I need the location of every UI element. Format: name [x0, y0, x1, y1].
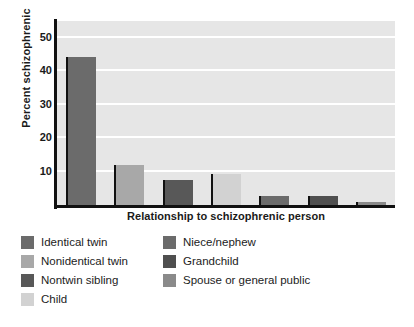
gridline	[57, 69, 395, 71]
legend-label: Grandchild	[183, 255, 239, 268]
legend-swatch-icon	[163, 255, 176, 268]
gridline	[57, 36, 395, 38]
gridline	[57, 170, 395, 172]
y-axis-tick-label: 40	[40, 64, 52, 76]
legend-label: Nonidentical twin	[41, 255, 128, 268]
bar	[114, 165, 144, 205]
legend-label: Identical twin	[41, 236, 107, 249]
legend-item: Nonidentical twin	[21, 252, 128, 271]
legend-swatch-icon	[21, 236, 34, 249]
y-axis-tick-label: 10	[40, 165, 52, 177]
legend-item: Grandchild	[163, 252, 310, 271]
x-axis-title: Relationship to schizophrenic person	[57, 210, 395, 222]
bar	[356, 202, 386, 205]
legend-label: Nontwin sibling	[41, 274, 118, 287]
bar	[163, 180, 193, 205]
legend-item: Nontwin sibling	[21, 271, 128, 290]
y-axis-tick-labels: 1020304050	[30, 0, 52, 232]
bar-chart: Percent schizophrenic 1020304050 Relatio…	[0, 0, 414, 232]
gridline	[57, 136, 395, 138]
bar	[211, 174, 241, 205]
legend-column-right: Niece/nephewGrandchildSpouse or general …	[163, 233, 310, 290]
bar	[66, 57, 96, 205]
legend-column-left: Identical twinNonidentical twinNontwin s…	[21, 233, 128, 309]
legend-item: Identical twin	[21, 233, 128, 252]
legend-swatch-icon	[21, 274, 34, 287]
legend-swatch-icon	[163, 236, 176, 249]
x-axis-line	[54, 205, 395, 208]
legend: Identical twinNonidentical twinNontwin s…	[0, 233, 414, 327]
bar	[308, 196, 338, 205]
legend-swatch-icon	[163, 274, 176, 287]
legend-label: Child	[41, 293, 67, 306]
legend-item: Niece/nephew	[163, 233, 310, 252]
y-axis-tick-label: 50	[40, 31, 52, 43]
y-axis-tick-label: 30	[40, 98, 52, 110]
legend-item: Spouse or general public	[163, 271, 310, 290]
bar	[259, 196, 289, 205]
legend-label: Spouse or general public	[183, 274, 310, 287]
legend-label: Niece/nephew	[183, 236, 256, 249]
legend-swatch-icon	[21, 293, 34, 306]
legend-swatch-icon	[21, 255, 34, 268]
figure: Percent schizophrenic 1020304050 Relatio…	[0, 0, 414, 327]
gridline	[57, 103, 395, 105]
y-axis-tick-label: 20	[40, 131, 52, 143]
legend-item: Child	[21, 290, 128, 309]
plot-area	[57, 21, 395, 205]
